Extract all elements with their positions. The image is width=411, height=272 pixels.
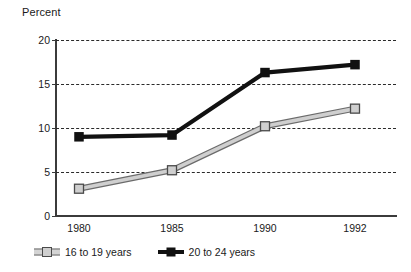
- legend-marker-square-gray: [42, 247, 52, 257]
- x-tick-label-1990: 1990: [253, 222, 276, 234]
- data-point-16-to-19-years-1985: [168, 166, 177, 175]
- data-point-20-to-24-years-1990: [260, 68, 270, 78]
- legend-label-16-to-19-years: 16 to 19 years: [65, 246, 132, 258]
- data-point-16-to-19-years-1990: [261, 122, 270, 131]
- chart-legend: 16 to 19 years 20 to 24 years: [34, 246, 255, 258]
- x-tick-label-1980: 1980: [67, 222, 90, 234]
- legend-swatch-gray: [34, 246, 60, 258]
- x-tick-label-1985: 1985: [160, 222, 183, 234]
- data-point-20-to-24-years-1992: [350, 60, 360, 70]
- legend-item-20-to-24-years: 20 to 24 years: [158, 246, 256, 258]
- series-line-16-to-19-years: [79, 109, 355, 189]
- series-line-20-to-24-years: [79, 65, 355, 137]
- legend-marker-square-black: [166, 248, 175, 257]
- data-point-16-to-19-years-1980: [75, 184, 84, 193]
- data-point-16-to-19-years-1992: [351, 104, 360, 113]
- x-tick-label-1992: 1992: [343, 222, 366, 234]
- legend-item-16-to-19-years: 16 to 19 years: [34, 246, 132, 258]
- legend-label-20-to-24-years: 20 to 24 years: [189, 246, 256, 258]
- data-point-20-to-24-years-1980: [74, 132, 84, 142]
- data-point-20-to-24-years-1985: [167, 130, 177, 140]
- legend-swatch-black: [158, 246, 184, 258]
- unemployment-rate-line-chart: Percent 05101520 16 to 19 years 20 to 24…: [0, 0, 411, 272]
